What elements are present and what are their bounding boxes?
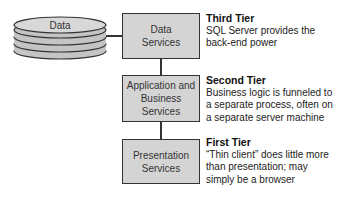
third-tier-description: Third Tier SQL Server provides the back-…	[206, 12, 336, 50]
presentation-services-box: Presentation Services	[122, 139, 200, 184]
third-tier-title: Third Tier	[206, 12, 336, 25]
application-services-label: Application and Business Services	[126, 79, 196, 118]
first-tier-text: “Thin client” does little more than pres…	[206, 149, 332, 187]
connector-app-to-presentation	[160, 122, 162, 139]
application-business-services-box: Application and Business Services	[122, 75, 200, 122]
connector-data-to-app	[160, 59, 162, 75]
data-services-box: Data Services	[122, 13, 200, 59]
database-label: Data	[14, 20, 106, 31]
data-services-label: Data Services	[136, 23, 186, 49]
presentation-services-label: Presentation Services	[127, 149, 195, 175]
third-tier-text: SQL Server provides the back-end power	[206, 25, 336, 50]
first-tier-title: First Tier	[206, 136, 332, 149]
second-tier-title: Second Tier	[206, 74, 340, 87]
first-tier-description: First Tier “Thin client” does little mor…	[206, 136, 332, 186]
second-tier-description: Second Tier Business logic is funneled t…	[206, 74, 340, 124]
connector-db-to-data	[106, 35, 122, 37]
second-tier-text: Business logic is funneled to a separate…	[206, 87, 340, 125]
